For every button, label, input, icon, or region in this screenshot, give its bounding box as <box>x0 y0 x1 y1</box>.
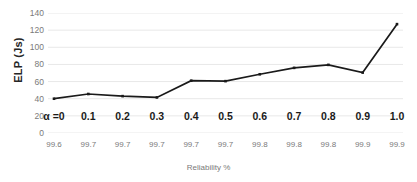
y-axis-tick-label: 0 <box>18 128 44 138</box>
x-axis-tick-label: 99.7 <box>81 140 97 149</box>
line-chart: ELP (Js) 020406080100120140 α =00.10.20.… <box>0 0 417 182</box>
y-axis-tick-label: 20 <box>18 111 44 121</box>
y-axis-tick-label: 140 <box>18 8 44 18</box>
x-axis-tick-label: 99.9 <box>389 140 405 149</box>
x-axis-ticks: 99.699.799.799.799.799.799.899.899.899.9… <box>48 0 403 182</box>
x-axis-tick-label: 99.8 <box>286 140 302 149</box>
x-axis-tick-label: 99.7 <box>149 140 165 149</box>
y-axis-tick-label: 40 <box>18 94 44 104</box>
y-axis-ticks: 020406080100120140 <box>18 0 44 182</box>
x-axis-tick-label: 99.8 <box>321 140 337 149</box>
y-axis-tick-label: 60 <box>18 77 44 87</box>
x-axis-tick-label: 99.9 <box>355 140 371 149</box>
x-axis-title: Reliability % <box>0 163 417 172</box>
x-axis-tick-label: 99.7 <box>183 140 199 149</box>
x-axis-tick-label: 99.6 <box>46 140 62 149</box>
x-axis-tick-label: 99.8 <box>252 140 268 149</box>
y-axis-tick-label: 80 <box>18 59 44 69</box>
y-axis-tick-label: 100 <box>18 42 44 52</box>
x-axis-tick-label: 99.7 <box>218 140 234 149</box>
y-axis-tick-label: 120 <box>18 25 44 35</box>
x-axis-tick-label: 99.7 <box>115 140 131 149</box>
